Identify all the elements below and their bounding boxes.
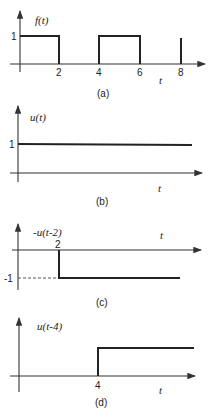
x-label: t xyxy=(159,74,163,86)
y-label: u(t-4) xyxy=(37,320,62,333)
panel-c: -u(t-2) -1 2 t (c) xyxy=(4,224,201,308)
step-line xyxy=(18,144,192,145)
x-tick-4: 4 xyxy=(96,67,102,78)
x-label: t xyxy=(158,182,162,194)
x-tick-8: 8 xyxy=(178,67,184,78)
pulse-2 xyxy=(99,36,140,64)
caption: (b) xyxy=(96,196,108,207)
x-label: t xyxy=(160,229,164,241)
signal-diagram: f(t) 1 2 4 6 8 t (a) u(t) 1 t (b) -u(t-2… xyxy=(0,0,213,419)
caption: (a) xyxy=(97,88,109,99)
y-label: f(t) xyxy=(35,14,49,27)
y-label: u(t) xyxy=(30,111,46,124)
panel-a: f(t) 1 2 4 6 8 t (a) xyxy=(10,11,205,99)
y-tick: 1 xyxy=(11,31,17,42)
pulse-1 xyxy=(20,36,59,64)
delayed-step xyxy=(98,348,194,376)
x-label: t xyxy=(159,384,163,396)
negative-step xyxy=(59,250,180,278)
y-tick: 1 xyxy=(9,139,15,150)
x-tick-6: 6 xyxy=(137,67,143,78)
panel-d: u(t-4) 4 t (d) xyxy=(10,318,195,408)
panel-b: u(t) 1 t (b) xyxy=(9,106,202,207)
y-label: -u(t-2) xyxy=(33,226,62,239)
y-tick: -1 xyxy=(4,273,13,284)
x-tick-2: 2 xyxy=(56,67,62,78)
caption: (d) xyxy=(95,397,107,408)
caption: (c) xyxy=(96,297,108,308)
x-tick-2: 2 xyxy=(55,239,61,250)
x-tick-4: 4 xyxy=(95,380,101,391)
